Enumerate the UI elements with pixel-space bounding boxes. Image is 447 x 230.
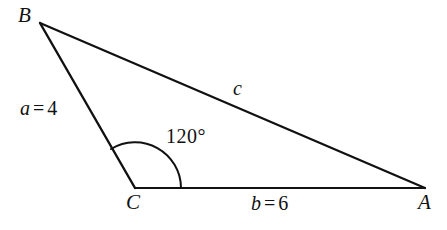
triangle-diagram: B C A a=4 b=6 c 120° <box>0 0 447 230</box>
side-a-value: 4 <box>47 97 57 119</box>
side-c-variable: c <box>233 77 242 99</box>
vertex-label-c: C <box>126 192 140 213</box>
side-b-value: 6 <box>278 192 288 214</box>
triangle-graphic <box>0 0 447 230</box>
side-a-equals: = <box>30 97 47 119</box>
side-label-b: b=6 <box>251 193 288 213</box>
side-c-line <box>40 23 425 188</box>
vertex-label-a: A <box>418 192 431 213</box>
side-label-a: a=4 <box>20 98 57 118</box>
side-b-equals: = <box>261 192 278 214</box>
side-label-c: c <box>233 78 242 98</box>
vertex-label-b: B <box>18 5 31 26</box>
angle-label-c: 120° <box>166 126 206 146</box>
side-a-variable: a <box>20 97 30 119</box>
side-b-variable: b <box>251 192 261 214</box>
